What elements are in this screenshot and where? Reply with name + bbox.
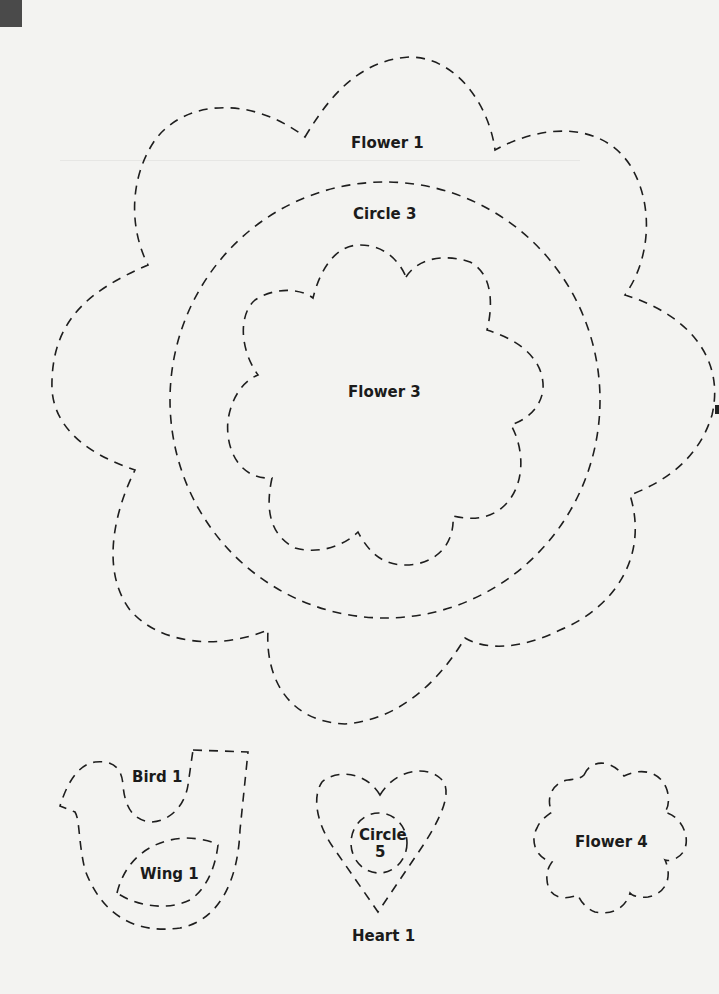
flower1-label: Flower 1 bbox=[351, 135, 424, 151]
flower3-outline bbox=[228, 245, 543, 565]
circle5-label-line1: Circle bbox=[359, 827, 407, 843]
circle3-label: Circle 3 bbox=[353, 206, 416, 222]
flower4-label: Flower 4 bbox=[575, 834, 648, 850]
circle5-label-line2: 5 bbox=[375, 844, 385, 860]
flower3-label: Flower 3 bbox=[348, 384, 421, 400]
bird1-label: Bird 1 bbox=[132, 769, 182, 785]
wing1-label: Wing 1 bbox=[140, 866, 199, 882]
heart1-label: Heart 1 bbox=[352, 928, 415, 944]
